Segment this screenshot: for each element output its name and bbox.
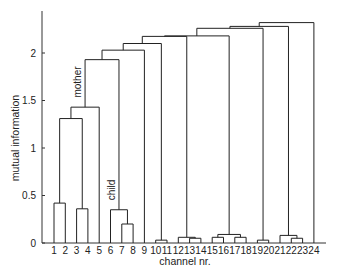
dendrogram-link bbox=[230, 26, 289, 235]
x-tick-label: 5 bbox=[96, 245, 102, 256]
x-tick-label: 4 bbox=[85, 245, 91, 256]
x-tick-label: 21 bbox=[274, 245, 286, 256]
dendrogram-link bbox=[190, 238, 201, 243]
x-tick-label: 3 bbox=[74, 245, 80, 256]
dendrogram-link bbox=[77, 209, 88, 243]
dendrogram-link bbox=[122, 224, 133, 243]
dendrogram-link bbox=[291, 238, 302, 243]
x-tick-label: 6 bbox=[108, 245, 114, 256]
dendrogram-link bbox=[235, 237, 246, 243]
x-tick-label: 17 bbox=[229, 245, 241, 256]
x-tick-label: 1 bbox=[51, 245, 57, 256]
dendrogram-link bbox=[142, 36, 186, 237]
x-tick-label: 20 bbox=[263, 245, 275, 256]
dendrogram-link bbox=[280, 235, 297, 243]
x-tick-label: 9 bbox=[142, 245, 148, 256]
y-tick-label: 2 bbox=[30, 48, 36, 59]
y-axis-title: mutual information bbox=[9, 95, 21, 182]
dendrogram-link bbox=[102, 50, 144, 243]
dendrogram-links bbox=[54, 23, 314, 243]
dendrogram-link bbox=[71, 107, 99, 243]
mother-annotation: mother bbox=[72, 66, 83, 98]
x-tick-label: 24 bbox=[308, 245, 320, 256]
y-tick-label: 0.5 bbox=[22, 190, 36, 201]
x-tick-label: 7 bbox=[119, 245, 125, 256]
x-tick-label: 22 bbox=[286, 245, 298, 256]
y-tick-label: 1.5 bbox=[22, 95, 36, 106]
x-tick-label: 2 bbox=[63, 245, 69, 256]
dendrogram-link bbox=[60, 119, 83, 209]
axes bbox=[42, 11, 326, 243]
child-annotation: child bbox=[106, 180, 117, 201]
dendrogram-chart: 00.511.52 123456789101112131415161718192… bbox=[0, 0, 338, 277]
dendrogram-link bbox=[259, 23, 314, 243]
dendrogram-link bbox=[111, 210, 128, 243]
dendrogram-link bbox=[197, 28, 263, 240]
dendrogram-link bbox=[123, 44, 161, 241]
x-tick-label: 23 bbox=[297, 245, 309, 256]
dendrogram-link bbox=[54, 203, 65, 243]
x-tick-label: 18 bbox=[241, 245, 253, 256]
x-tick-label: 19 bbox=[252, 245, 264, 256]
y-tick-label: 0 bbox=[30, 238, 36, 249]
dendrogram-link bbox=[165, 36, 230, 235]
x-tick-label: 8 bbox=[130, 245, 136, 256]
dendrogram-link bbox=[212, 237, 223, 243]
x-tick-label: 16 bbox=[218, 245, 230, 256]
y-tick-label: 1 bbox=[30, 143, 36, 154]
x-axis-title: channel nr. bbox=[159, 255, 210, 267]
